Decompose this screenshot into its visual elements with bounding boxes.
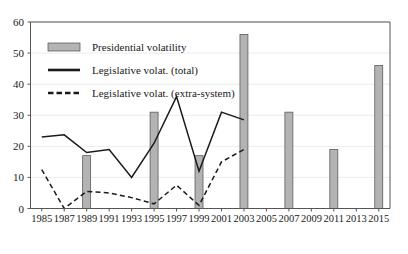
x-tick-label-1993: 1993	[121, 213, 142, 224]
x-tick-label-1997: 1997	[166, 213, 187, 224]
x-tick-label-2005: 2005	[256, 213, 277, 224]
x-tick-label-2013: 2013	[346, 213, 367, 224]
y-tick-label-10: 10	[13, 171, 25, 183]
bar-2007	[285, 112, 293, 208]
y-tick-label-30: 30	[13, 109, 25, 121]
y-tick-label-0: 0	[19, 203, 25, 215]
x-tick-label-1987: 1987	[54, 213, 75, 224]
x-tick-label-2007: 2007	[278, 213, 299, 224]
x-tick-label-1991: 1991	[99, 213, 120, 224]
bar-1989	[83, 156, 91, 209]
legend-label-1: Legislative volat. (total)	[92, 64, 198, 77]
x-tick-label-2011: 2011	[323, 213, 344, 224]
y-tick-label-50: 50	[13, 47, 25, 59]
legend-item-0: Presidential volatility	[48, 41, 187, 53]
x-tick-label-1985: 1985	[31, 213, 52, 224]
chart-container: 0102030405060 19851987198919911993199519…	[0, 0, 408, 254]
x-tick-label-2009: 2009	[301, 213, 322, 224]
bar-2003	[240, 34, 248, 208]
bar-2015	[375, 66, 383, 209]
bar-1995	[150, 112, 158, 208]
bar-2011	[330, 149, 338, 208]
x-tick-label-2003: 2003	[234, 213, 255, 224]
x-tick-label-1995: 1995	[144, 213, 165, 224]
x-tick-label-1999: 1999	[189, 213, 210, 224]
x-tick-label-2015: 2015	[368, 213, 389, 224]
legend-swatch-presidential-bar	[48, 43, 80, 51]
x-tick-label-1989: 1989	[76, 213, 97, 224]
volatility-chart: 0102030405060 19851987198919911993199519…	[0, 0, 408, 254]
y-tick-label-40: 40	[13, 78, 25, 90]
x-tick-label-2001: 2001	[211, 213, 232, 224]
x-axis-tick-labels: 1985198719891991199319951997199920012003…	[31, 213, 389, 224]
legend-label-2: Legislative volat. (extra-system)	[92, 87, 235, 100]
y-tick-label-20: 20	[13, 140, 25, 152]
legend-label-0: Presidential volatility	[92, 41, 187, 53]
y-tick-label-60: 60	[13, 16, 25, 28]
